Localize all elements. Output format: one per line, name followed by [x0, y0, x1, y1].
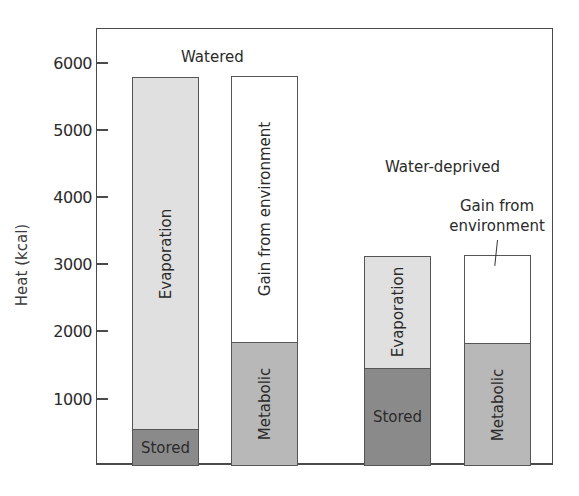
bar-watered-heat-gain: Gain from environment Metabolic — [231, 76, 298, 466]
segment-label-gain-from-environment: Gain from environment — [256, 122, 274, 296]
y-tick-label-5000: 5000 — [53, 121, 92, 140]
callout-line-2: environment — [440, 216, 554, 236]
y-tick-2000 — [96, 330, 108, 332]
y-tick-1000 — [96, 398, 108, 400]
segment-metabolic: Metabolic — [465, 343, 530, 465]
y-tick-label-3000: 3000 — [53, 255, 92, 274]
y-tick-5000 — [96, 129, 108, 131]
segment-label-stored: Stored — [373, 408, 422, 426]
segment-stored: Stored — [133, 429, 198, 465]
segment-label-metabolic: Metabolic — [489, 368, 507, 441]
segment-stored: Stored — [365, 368, 430, 465]
bar-watered-heat-loss: Evaporation Stored — [132, 77, 199, 466]
segment-evaporation: Evaporation — [365, 257, 430, 368]
bar-deprived-heat-gain: Metabolic — [464, 255, 531, 466]
y-tick-label-4000: 4000 — [53, 188, 92, 207]
y-tick-3000 — [96, 263, 108, 265]
y-tick-label-1000: 1000 — [53, 390, 92, 409]
callout-line-1: Gain from — [440, 196, 554, 216]
group-label-water-deprived: Water-deprived — [385, 158, 500, 176]
segment-label-metabolic: Metabolic — [256, 368, 274, 441]
group-label-watered: Watered — [181, 48, 244, 66]
segment-label-stored: Stored — [141, 439, 190, 457]
segment-evaporation: Evaporation — [133, 78, 198, 429]
y-tick-label-6000: 6000 — [53, 54, 92, 73]
y-tick-6000 — [96, 62, 108, 64]
segment-metabolic: Metabolic — [232, 342, 297, 465]
segment-label-evaporation: Evaporation — [389, 267, 407, 357]
y-tick-label-2000: 2000 — [53, 322, 92, 341]
y-tick-4000 — [96, 196, 108, 198]
segment-gain-from-environment — [465, 256, 530, 343]
segment-gain-from-environment: Gain from environment — [232, 77, 297, 342]
y-axis-label: Heat (kcal) — [13, 224, 31, 306]
segment-label-evaporation: Evaporation — [157, 208, 175, 298]
callout-gain-from-environment: Gain from environment — [440, 196, 554, 236]
bar-deprived-heat-loss: Evaporation Stored — [364, 256, 431, 466]
